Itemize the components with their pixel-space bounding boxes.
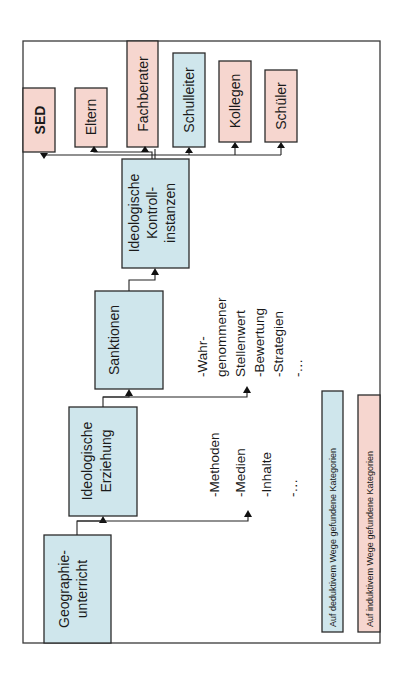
instance-label: Fachberater [135,56,151,132]
instance-label: Eltern [83,99,99,136]
flow-label: Ideologische [79,421,95,500]
flow-label: Geographie- [56,550,72,628]
instance-kollegen: Kollegen [219,61,251,142]
flow-kontrollinstanzen: Ideologische Kontroll- instanzen [122,159,189,268]
instance-fachberater: Fachberater [127,41,158,147]
list-item: -… [290,359,305,377]
list-item: -Strategien [271,311,286,377]
instance-schueler: Schüler [265,70,297,142]
flow-label: Ideologische [126,173,142,252]
instance-label: SED [32,106,48,135]
list-item: Stellenwert [233,310,248,377]
list-item: -… [285,479,300,497]
legend-label: Auf deduktivem Wege gefundene Kategorien [328,448,338,627]
flow-label: Kontroll- [144,187,160,239]
list-item: -Wahr- [195,336,210,377]
instance-label: Schulleiter [181,67,197,133]
instance-label: Kollegen [227,74,243,129]
flow-geographie: Geographie- unterricht [44,535,111,643]
flow-label: Erziehung [98,429,114,492]
list-item: genommener [214,297,229,377]
legend-deductive: Auf deduktivem Wege gefundene Kategorien [322,391,343,632]
diagram-canvas: SED Eltern Fachberater Schulleiter Kolle… [0,0,399,677]
legend-inductive: Auf induktivem Wege gefundene Kategorien [358,395,380,632]
flow-label: instanzen [162,183,178,243]
flow-erziehung: Ideologische Erziehung [69,407,137,516]
list-item: -Inhalte [259,452,274,497]
instance-schulleiter: Schulleiter [173,53,205,147]
instance-label: Schüler [273,82,289,130]
flow-label: unterricht [74,560,90,618]
flow-label: Sanktionen [106,305,122,375]
instance-eltern: Eltern [75,88,107,147]
list-item: -Bewertung [252,308,267,377]
legend-label: Auf induktivem Wege gefundene Kategorien [365,451,375,627]
instance-sed: SED [23,88,55,152]
list-item: -Medien [233,448,248,497]
list-item: -Methoden [207,432,222,497]
flow-sanktionen: Sanktionen [95,291,163,389]
